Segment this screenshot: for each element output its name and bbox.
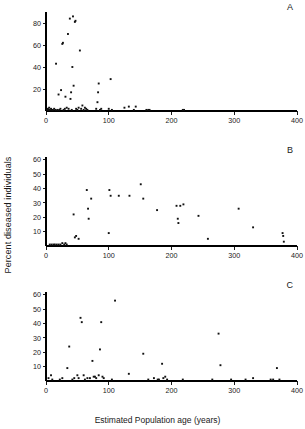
data-point bbox=[99, 348, 101, 350]
data-point bbox=[128, 373, 130, 375]
data-point bbox=[81, 105, 83, 107]
data-point-group bbox=[48, 300, 281, 381]
data-point bbox=[78, 107, 80, 109]
data-point bbox=[252, 226, 254, 228]
data-point bbox=[87, 208, 89, 210]
data-point bbox=[49, 244, 51, 246]
data-point bbox=[145, 109, 147, 111]
data-point bbox=[283, 241, 285, 243]
data-point bbox=[60, 89, 62, 91]
data-point bbox=[81, 321, 83, 323]
data-point bbox=[69, 18, 71, 20]
y-tick-label: 60 bbox=[33, 290, 41, 299]
data-point bbox=[70, 98, 72, 100]
data-point bbox=[61, 242, 63, 244]
data-point bbox=[84, 379, 86, 381]
data-point bbox=[245, 379, 247, 381]
data-point bbox=[158, 379, 160, 381]
data-point bbox=[59, 379, 61, 381]
data-point bbox=[89, 377, 91, 379]
data-point bbox=[76, 374, 78, 376]
y-tick-label: 50 bbox=[33, 170, 41, 179]
data-point bbox=[220, 364, 222, 366]
data-point bbox=[110, 78, 112, 80]
data-point bbox=[270, 379, 272, 381]
data-point bbox=[166, 379, 168, 381]
data-point bbox=[108, 189, 110, 191]
data-point bbox=[76, 109, 78, 111]
data-point bbox=[156, 209, 158, 211]
data-point bbox=[80, 108, 82, 110]
data-point bbox=[73, 213, 75, 215]
y-tick-label: 50 bbox=[33, 305, 41, 314]
data-point bbox=[276, 367, 278, 369]
data-point bbox=[72, 15, 74, 17]
data-point bbox=[66, 367, 68, 369]
x-tick-label: 400 bbox=[291, 251, 303, 260]
data-point bbox=[111, 109, 113, 111]
y-tick-label: 20 bbox=[33, 213, 41, 222]
data-point bbox=[48, 107, 50, 109]
data-point bbox=[282, 235, 284, 237]
data-point bbox=[58, 94, 60, 96]
data-point bbox=[218, 333, 220, 335]
data-point bbox=[54, 109, 56, 111]
x-tick-label: 200 bbox=[166, 116, 178, 125]
x-tick-label: 200 bbox=[166, 386, 178, 395]
data-point bbox=[176, 205, 178, 207]
data-point bbox=[90, 198, 92, 200]
x-tick-label: 300 bbox=[228, 116, 240, 125]
panel-c: C 1020304050600100200300400 bbox=[16, 278, 305, 406]
y-tick-label: 10 bbox=[33, 227, 41, 236]
data-point bbox=[83, 109, 85, 111]
y-tick-label: 40 bbox=[33, 63, 41, 72]
data-point bbox=[48, 377, 50, 379]
data-point bbox=[142, 198, 144, 200]
data-point bbox=[86, 377, 88, 379]
data-point bbox=[110, 195, 112, 197]
y-tick-label: 40 bbox=[33, 184, 41, 193]
data-point bbox=[54, 244, 56, 246]
data-point bbox=[50, 374, 52, 376]
y-axis-label: Percent diseased individuals bbox=[3, 156, 13, 273]
data-point bbox=[88, 218, 90, 220]
data-point bbox=[86, 109, 88, 111]
panel-c-plot: 1020304050600100200300400 bbox=[16, 278, 305, 406]
y-tick-label: 60 bbox=[33, 41, 41, 50]
data-point bbox=[135, 106, 137, 108]
data-point bbox=[108, 232, 110, 234]
data-point bbox=[272, 379, 274, 381]
data-point bbox=[55, 63, 57, 65]
y-axis-label-container: Percent diseased individuals bbox=[0, 0, 16, 429]
data-point bbox=[61, 377, 63, 379]
y-tick-label: 20 bbox=[33, 348, 41, 357]
data-point bbox=[56, 244, 58, 246]
figure-container: Percent diseased individuals A 204060800… bbox=[0, 0, 305, 429]
data-point bbox=[58, 244, 60, 246]
data-point bbox=[62, 42, 64, 44]
data-point bbox=[282, 232, 284, 234]
data-point bbox=[73, 377, 75, 379]
data-point bbox=[83, 374, 85, 376]
data-point bbox=[79, 50, 81, 52]
data-point-group bbox=[49, 183, 285, 245]
data-point bbox=[118, 195, 120, 197]
x-tick-label: 400 bbox=[291, 386, 303, 395]
x-tick-label: 200 bbox=[166, 251, 178, 260]
data-point bbox=[56, 109, 58, 111]
data-point bbox=[64, 108, 66, 110]
x-tick-label: 100 bbox=[103, 116, 115, 125]
x-tick-label: 100 bbox=[103, 386, 115, 395]
panel-a-plot: 204060800100200300400 bbox=[16, 0, 305, 140]
data-point bbox=[161, 363, 163, 365]
data-point bbox=[149, 109, 151, 111]
data-point bbox=[51, 244, 53, 246]
data-point bbox=[98, 83, 100, 85]
data-point bbox=[238, 208, 240, 210]
data-point bbox=[97, 91, 99, 93]
data-point bbox=[179, 205, 181, 207]
panel-a: A 204060800100200300400 bbox=[16, 0, 305, 140]
data-point bbox=[70, 91, 72, 93]
data-point bbox=[111, 379, 113, 381]
data-point bbox=[59, 108, 61, 110]
